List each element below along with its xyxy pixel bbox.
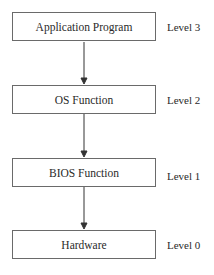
layer-box-hardware: Hardware [12,230,156,259]
layer-box-os-function: OS Function [12,85,156,114]
level-label-3: Level 3 [167,21,200,33]
layer-label: BIOS Function [49,167,119,179]
level-label-2: Level 2 [167,94,200,106]
layer-box-application-program: Application Program [12,12,156,41]
layer-label: Application Program [36,21,133,33]
layer-box-bios-function: BIOS Function [12,158,156,187]
arrowhead-icon [81,78,87,84]
arrowhead-icon [81,223,87,229]
layer-label: Hardware [61,239,106,251]
level-label-1: Level 1 [167,170,200,182]
layer-label: OS Function [55,94,113,106]
level-label-0: Level 0 [167,239,200,251]
arrowhead-icon [81,151,87,157]
